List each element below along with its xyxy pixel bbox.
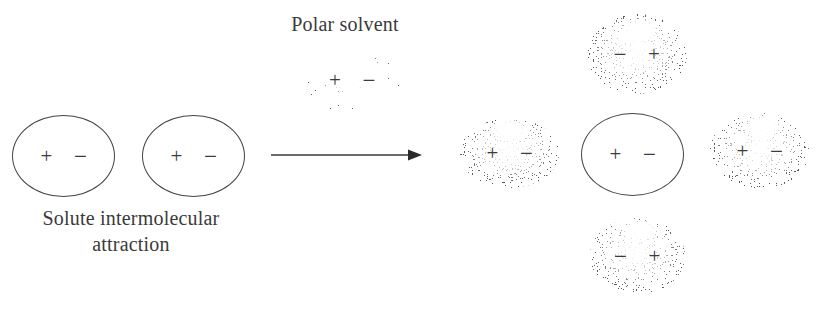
solvent-molecule-right: + − bbox=[709, 112, 810, 190]
plus-charge: + bbox=[599, 144, 633, 165]
solvent-molecule-left: + − bbox=[459, 117, 560, 189]
minus-charge: − bbox=[633, 143, 667, 166]
charge-pair: + − bbox=[143, 116, 244, 196]
stipple-texture bbox=[459, 117, 560, 189]
charge-pair: + − bbox=[582, 114, 683, 195]
solute-molecule-center: + − bbox=[581, 113, 684, 196]
solute-attraction-caption: Solute intermolecular attraction bbox=[2, 206, 260, 257]
plus-charge: + bbox=[160, 146, 194, 167]
minus-charge: − bbox=[64, 145, 98, 168]
solvation-diagram: + − + − Solute intermolecular attraction… bbox=[0, 0, 823, 320]
polar-solvent-caption: Polar solvent bbox=[262, 12, 428, 38]
reaction-arrow bbox=[270, 142, 422, 168]
charge-pair: + − bbox=[13, 116, 114, 196]
solvent-molecule-legend: + − bbox=[303, 46, 401, 114]
stipple-texture bbox=[589, 217, 686, 295]
arrow-icon bbox=[270, 142, 422, 168]
solvent-molecule-top: − + bbox=[586, 13, 688, 95]
solute-molecule-left-2: + − bbox=[142, 115, 245, 197]
stipple-texture bbox=[586, 13, 688, 95]
stipple-texture bbox=[709, 112, 810, 190]
solvent-molecule-bottom: − + bbox=[589, 217, 686, 295]
solute-molecule-left-1: + − bbox=[12, 115, 115, 197]
minus-charge: − bbox=[194, 145, 228, 168]
plus-charge: + bbox=[30, 146, 64, 167]
stipple-texture bbox=[303, 46, 401, 114]
